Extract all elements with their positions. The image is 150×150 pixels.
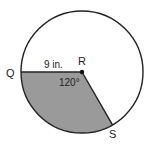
center-point-r xyxy=(80,70,84,74)
label-r: R xyxy=(78,55,86,67)
label-s: S xyxy=(109,128,116,140)
circle-sector-diagram: Q R S 9 in. 120° xyxy=(0,0,150,150)
radius-length-label: 9 in. xyxy=(44,59,63,70)
label-q: Q xyxy=(6,67,15,79)
angle-label: 120° xyxy=(59,77,80,88)
